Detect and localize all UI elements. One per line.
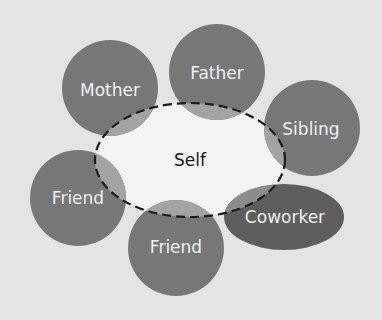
- mother-label: Mother: [80, 80, 140, 100]
- father-label: Father: [190, 63, 244, 83]
- self-label: Self: [174, 150, 207, 170]
- coworker-label: Coworker: [245, 207, 325, 227]
- sibling-label: Sibling: [282, 119, 339, 139]
- network-diagram: Self Mother Father Sibling Friend Friend…: [0, 0, 382, 320]
- friend-bottom-label: Friend: [150, 237, 202, 257]
- friend-left-label: Friend: [52, 188, 104, 208]
- diagram-canvas: Self Mother Father Sibling Friend Friend…: [0, 0, 382, 320]
